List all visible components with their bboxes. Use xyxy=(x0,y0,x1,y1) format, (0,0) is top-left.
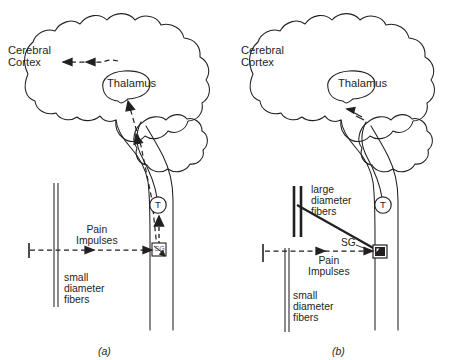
brainstem-left-contour xyxy=(116,120,150,330)
small-diameter-fiber-line xyxy=(285,248,289,332)
cortex-dashed-arrow xyxy=(63,58,118,65)
sg-label-a: SG xyxy=(155,245,165,252)
large-diameter-fiber-line xyxy=(294,186,301,237)
pain-impulses-label-a: Pain Impulses xyxy=(76,224,118,246)
thalamus-label-a: Thalamus xyxy=(107,78,156,90)
cerebral-cortex-label-a: Cerebral Cortex xyxy=(8,45,51,69)
sg-label-b: SG xyxy=(341,238,356,249)
pain-impulse-dashed-arrow xyxy=(265,247,373,254)
t-cell-label-a: T xyxy=(155,200,161,210)
pain-impulses-label-b: Pain Impulses xyxy=(308,255,350,277)
panel-a-caption: (a) xyxy=(98,345,111,357)
small-diameter-fiber-line xyxy=(54,183,58,307)
pain-impulse-dashed-arrow xyxy=(30,246,152,253)
brainstem-left-contour xyxy=(341,120,375,330)
thalamus-label-b: Thalamus xyxy=(338,78,387,90)
small-diameter-fibers-label-a: small diameter fibers xyxy=(64,272,104,305)
t-cell-label-b: T xyxy=(380,200,386,210)
panel-a: Cerebral Cortex Thalamus T SG Pain Impul… xyxy=(0,0,225,360)
cerebral-cortex-label-b: Cerebral Cortex xyxy=(241,45,284,69)
large-diameter-fibers-label-b: large diameter fibers xyxy=(311,184,351,217)
figure-canvas: Cerebral Cortex Thalamus T SG Pain Impul… xyxy=(0,0,450,360)
panel-b-caption: (b) xyxy=(332,345,345,357)
small-diameter-fibers-label-b: small diameter fibers xyxy=(293,290,333,323)
blocked-pathway-marker xyxy=(347,108,364,121)
panel-b: Cerebral Cortex Thalamus T large diamete… xyxy=(225,0,450,360)
